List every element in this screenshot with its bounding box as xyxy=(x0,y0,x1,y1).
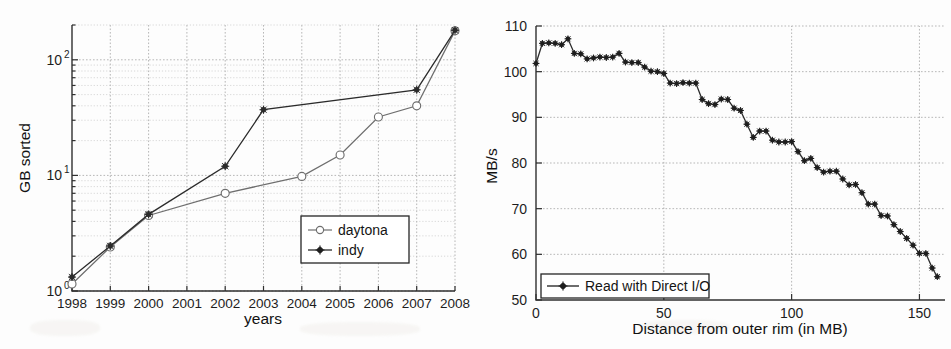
data-point-marker xyxy=(865,201,872,208)
data-point-marker xyxy=(648,68,655,75)
data-point-marker xyxy=(852,181,859,188)
data-point-marker xyxy=(221,162,229,170)
data-point-marker xyxy=(336,151,344,159)
svg-text:2: 2 xyxy=(64,49,70,60)
y-tick-label: 70 xyxy=(511,201,527,217)
data-point-marker xyxy=(884,213,891,220)
x-tick-label: 2000 xyxy=(134,296,164,311)
data-point-marker xyxy=(699,96,706,103)
mbs-vs-distance-chart: 050100150 5060708090100110 Distance from… xyxy=(475,0,951,349)
x-tick-label: 1999 xyxy=(95,296,125,311)
data-point-marker xyxy=(616,50,623,57)
x-tick-label: 2003 xyxy=(248,296,278,311)
data-point-marker xyxy=(897,228,904,235)
y-tick-label: 110 xyxy=(505,18,528,34)
right-gridlines xyxy=(536,26,945,300)
data-point-marker xyxy=(814,164,821,171)
right-y-axis-label: MB/s xyxy=(483,148,500,184)
x-tick-label: 2001 xyxy=(172,296,202,311)
data-point-marker xyxy=(807,155,814,162)
right-x-axis-label: Distance from outer rim (in MB) xyxy=(632,320,847,337)
data-point-marker xyxy=(584,55,591,62)
x-tick-label: 50 xyxy=(656,305,672,321)
data-point-marker xyxy=(922,250,929,257)
x-tick-label: 150 xyxy=(908,305,932,321)
data-point-marker xyxy=(750,134,757,141)
left-x-axis-label: years xyxy=(244,310,282,327)
data-point-marker xyxy=(737,107,744,114)
data-point-marker xyxy=(686,80,693,87)
x-tick-label: 2006 xyxy=(363,296,393,311)
data-point-marker xyxy=(552,40,559,47)
right-legend[interactable]: Read with Direct I/O xyxy=(541,274,710,298)
y-tick-label: 90 xyxy=(511,109,527,125)
data-point-marker xyxy=(839,176,846,183)
left-y-tick-labels: 100101102 xyxy=(46,49,70,299)
right-series-group xyxy=(533,35,941,280)
data-point-marker xyxy=(533,60,540,67)
x-tick-label: 2004 xyxy=(287,296,318,311)
data-point-marker xyxy=(705,100,712,107)
data-point-marker xyxy=(833,168,840,175)
data-point-marker xyxy=(724,96,731,103)
data-point-marker xyxy=(820,169,827,176)
data-point-marker xyxy=(929,265,936,272)
right-y-tick-labels: 5060708090100110 xyxy=(504,18,528,308)
data-point-marker xyxy=(68,280,76,288)
data-point-marker xyxy=(934,273,941,280)
data-point-marker xyxy=(763,128,770,135)
y-tick-label: 60 xyxy=(511,246,527,262)
x-tick-label: 2007 xyxy=(402,296,432,311)
legend-label-indy: indy xyxy=(338,242,364,258)
svg-text:10: 10 xyxy=(46,52,62,68)
data-point-marker xyxy=(756,128,763,135)
x-tick-label: 2002 xyxy=(210,296,240,311)
svg-text:10: 10 xyxy=(46,167,62,183)
y-tick-label: 80 xyxy=(511,155,527,171)
data-point-marker xyxy=(846,182,853,189)
data-point-marker xyxy=(782,139,789,146)
data-point-marker xyxy=(731,105,738,112)
left-legend[interactable]: daytona indy xyxy=(301,216,409,263)
left-x-tick-labels: 1998199920002001200220032004200520062007… xyxy=(57,296,470,311)
data-point-marker xyxy=(801,157,808,164)
data-point-marker xyxy=(260,106,268,114)
data-point-marker xyxy=(859,189,866,196)
data-point-marker xyxy=(539,40,546,47)
data-point-marker xyxy=(298,172,306,180)
x-tick-label: 2005 xyxy=(325,296,355,311)
y-tick-label: 50 xyxy=(511,292,527,308)
data-point-marker xyxy=(145,210,153,218)
series-line-read-direct-io xyxy=(536,39,937,277)
data-point-marker xyxy=(916,250,923,257)
figure-page: 1998199920002001200220032004200520062007… xyxy=(0,0,951,349)
legend-label-daytona: daytona xyxy=(338,222,388,238)
data-point-marker xyxy=(221,189,229,197)
data-point-marker xyxy=(910,242,917,249)
data-point-marker xyxy=(374,113,382,121)
data-point-marker xyxy=(680,79,687,86)
legend-label-read-direct-io: Read with Direct I/O xyxy=(585,278,710,294)
data-point-marker xyxy=(603,54,610,61)
data-point-marker xyxy=(451,26,459,34)
data-point-marker xyxy=(597,54,604,61)
data-point-marker xyxy=(795,148,802,155)
data-point-marker xyxy=(590,55,597,62)
data-point-marker xyxy=(890,221,897,228)
data-point-marker xyxy=(68,273,76,281)
x-tick-label: 2008 xyxy=(440,296,470,311)
y-tick-label: 102 xyxy=(46,49,70,68)
data-point-marker xyxy=(718,96,725,103)
data-point-marker xyxy=(775,139,782,146)
data-point-marker xyxy=(827,168,834,175)
data-point-marker xyxy=(903,235,910,242)
svg-text:1: 1 xyxy=(64,164,70,175)
data-point-marker xyxy=(641,64,648,71)
data-point-marker xyxy=(609,54,616,61)
data-point-marker xyxy=(628,59,635,66)
data-point-marker xyxy=(788,138,795,145)
right-chart-canvas: 050100150 5060708090100110 Distance from… xyxy=(475,0,951,349)
data-point-marker xyxy=(413,86,421,94)
data-point-marker xyxy=(743,121,750,128)
svg-text:10: 10 xyxy=(46,283,62,299)
